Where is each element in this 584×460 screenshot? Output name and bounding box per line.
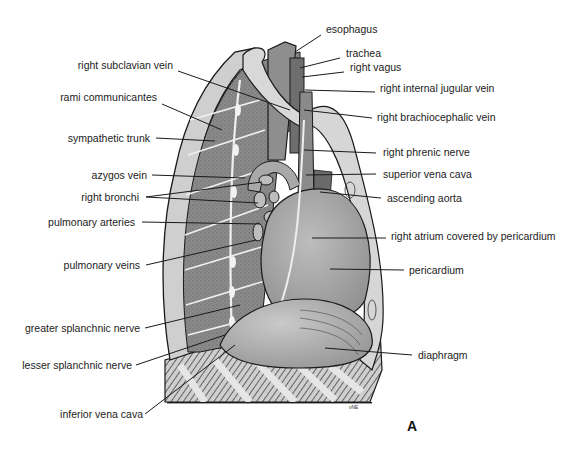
label-esophagus: esophagus — [326, 23, 377, 35]
label-superior-vena-cava: superior vena cava — [383, 168, 472, 180]
label-right-bronchi: right bronchi — [81, 191, 139, 203]
label-ascending-aorta: ascending aorta — [387, 192, 462, 204]
label-pericardium: pericardium — [409, 264, 464, 276]
label-diaphragm: diaphragm — [418, 349, 468, 361]
label-right-vagus: right vagus — [350, 61, 401, 73]
label-greater-splanchnic-nerve: greater splanchnic nerve — [25, 322, 140, 334]
anatomy-figure: right subclavian vein rami communicantes… — [0, 0, 584, 460]
label-azygos-vein: azygos vein — [92, 169, 147, 181]
panel-letter: A — [407, 418, 417, 434]
label-pulmonary-arteries: pulmonary arteries — [48, 216, 135, 228]
label-right-brachiocephalic-vein: right brachiocephalic vein — [377, 111, 495, 123]
label-pulmonary-veins: pulmonary veins — [64, 259, 140, 271]
label-right-subclavian-vein: right subclavian vein — [78, 59, 173, 71]
label-sympathetic-trunk: sympathetic trunk — [68, 132, 150, 144]
label-right-phrenic-nerve: right phrenic nerve — [383, 146, 470, 158]
label-rami-communicantes: rami communicantes — [60, 91, 157, 103]
label-inferior-vena-cava: inferior vena cava — [60, 408, 143, 420]
artist-signature: vNE — [349, 404, 358, 410]
label-trachea: trachea — [346, 47, 381, 59]
label-right-internal-jugular-vein: right internal jugular vein — [380, 82, 494, 94]
label-right-atrium-covered-by-pericardium: right atrium covered by pericardium — [391, 230, 556, 242]
label-lesser-splanchnic-nerve: lesser splanchnic nerve — [22, 359, 132, 371]
